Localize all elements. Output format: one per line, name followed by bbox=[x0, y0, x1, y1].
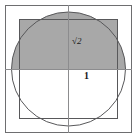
side-length-label: 1 bbox=[84, 71, 89, 81]
figure-canvas bbox=[0, 0, 137, 138]
geometry-figure: √2 1 bbox=[0, 0, 137, 138]
diagonal-length-label: √2 bbox=[72, 37, 81, 46]
